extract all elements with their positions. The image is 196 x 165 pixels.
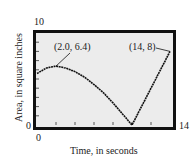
annotation-peak: (2.0, 6.4) <box>54 42 91 52</box>
x-min-label: 0 <box>36 133 41 143</box>
x-max-label: 14 <box>179 121 189 131</box>
chart-svg <box>0 0 196 165</box>
y-axis-title: Area, in square inches <box>13 28 24 128</box>
y-min-label: 0 <box>26 121 31 131</box>
x-axis-title: Time, in seconds <box>70 146 138 156</box>
annotation-end: (14, 8) <box>129 42 156 52</box>
y-max-label: 10 <box>34 17 44 27</box>
